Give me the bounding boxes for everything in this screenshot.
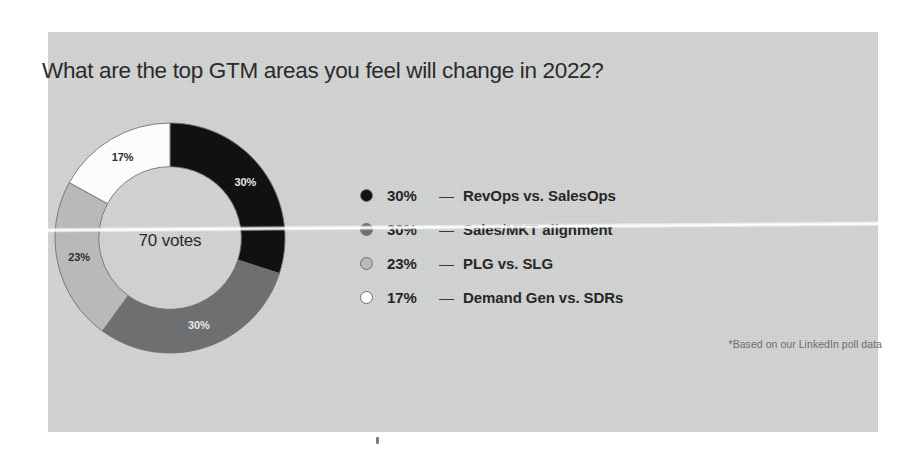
legend-label: Demand Gen vs. SDRs xyxy=(463,289,623,306)
chart-legend: 30%—RevOps vs. SalesOps30%—Sales/MKT ali… xyxy=(360,178,623,314)
scan-speck xyxy=(376,437,379,444)
legend-item[interactable]: 23%—PLG vs. SLG xyxy=(360,246,623,280)
legend-label: Sales/MKT alignment xyxy=(463,221,612,238)
legend-label: RevOps vs. SalesOps xyxy=(463,187,616,204)
legend-percent: 30% xyxy=(387,187,439,204)
legend-color-swatch-icon xyxy=(360,189,373,202)
legend-item[interactable]: 30%—Sales/MKT alignment xyxy=(360,212,623,246)
donut-slice-label: 23% xyxy=(68,251,90,263)
legend-dash: — xyxy=(439,187,463,204)
page-title: What are the top GTM areas you feel will… xyxy=(42,57,762,85)
legend-dash: — xyxy=(439,255,463,272)
donut-chart-svg: 30%30%23%17% 70 votes xyxy=(52,116,288,356)
footnote: *Based on our LinkedIn poll data xyxy=(729,338,882,350)
legend-dash: — xyxy=(439,221,463,238)
donut-slice xyxy=(55,183,128,331)
donut-slice-label: 30% xyxy=(235,176,257,188)
legend-item[interactable]: 17%—Demand Gen vs. SDRs xyxy=(360,280,623,314)
legend-percent: 30% xyxy=(387,221,439,238)
donut-slice-label: 17% xyxy=(112,151,134,163)
legend-item[interactable]: 30%—RevOps vs. SalesOps xyxy=(360,178,623,212)
donut-slice xyxy=(170,123,285,274)
legend-percent: 17% xyxy=(387,289,439,306)
legend-percent: 23% xyxy=(387,255,439,272)
legend-color-swatch-icon xyxy=(360,223,373,236)
legend-dash: — xyxy=(439,289,463,306)
donut-slice xyxy=(102,260,279,353)
donut-center-total: 70 votes xyxy=(139,231,202,250)
legend-color-swatch-icon xyxy=(360,257,373,270)
donut-slice-label: 30% xyxy=(188,319,210,331)
donut-chart: 30%30%23%17% 70 votes xyxy=(52,116,288,356)
legend-label: PLG vs. SLG xyxy=(463,255,553,272)
legend-color-swatch-icon xyxy=(360,291,373,304)
